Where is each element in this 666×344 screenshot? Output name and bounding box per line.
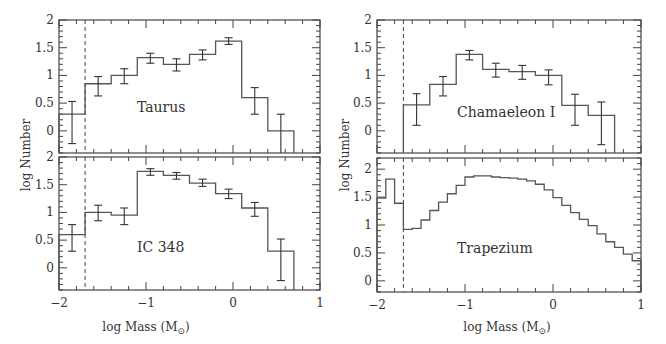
y-tick-label: 1	[46, 205, 54, 219]
panel-ic348: 00.511.52−2−101IC 348	[35, 150, 324, 310]
error-bar	[571, 94, 579, 125]
y-tick-label: 0.5	[35, 233, 54, 247]
error-bar	[68, 101, 76, 143]
svg-text:log Mass (M⊙): log Mass (M⊙)	[102, 320, 189, 336]
y-tick-label: 0	[46, 261, 54, 275]
x-tick-label: 1	[316, 296, 324, 310]
error-bar	[120, 208, 128, 225]
error-bar	[439, 77, 447, 96]
y-tick-label: 1.5	[353, 190, 372, 204]
histogram-steps	[59, 171, 294, 290]
x-tick-label: −2	[368, 298, 386, 312]
error-bar	[277, 114, 285, 153]
panel-trapezium: 00.511.52−2−101Trapezium	[353, 158, 645, 312]
x-tick-label: −1	[137, 296, 155, 310]
error-bar	[597, 102, 605, 145]
error-bar	[68, 225, 76, 252]
histogram-steps	[377, 176, 641, 292]
x-axis-label-close: )	[185, 320, 190, 334]
y-tick-label: 0	[46, 124, 54, 138]
error-bar	[518, 65, 526, 79]
x-axis-label-left: log Mass (M⊙)	[102, 320, 189, 336]
x-tick-label: 0	[229, 296, 237, 310]
panel-taurus: 00.511.52Taurus	[35, 13, 320, 153]
error-bar	[251, 88, 259, 115]
error-bar	[120, 69, 128, 84]
y-tick-label: 2	[364, 13, 372, 27]
error-bar	[545, 70, 553, 85]
x-tick-label: −2	[50, 296, 68, 310]
y-tick-label: 1.5	[353, 41, 372, 55]
x-axis-label-text: log Mass (M	[463, 320, 538, 334]
solar-mass-symbol: ⊙	[538, 326, 546, 336]
y-axis-label-right: log Number	[338, 118, 352, 191]
error-bar	[277, 239, 285, 281]
y-tick-label: 0	[364, 274, 372, 288]
y-tick-label: 1	[364, 68, 372, 82]
y-tick-label: 2	[46, 13, 54, 27]
x-tick-label: −1	[456, 298, 474, 312]
error-bar	[492, 63, 500, 77]
x-axis-label-close: )	[546, 320, 551, 334]
x-axis-label-text: log Mass (M	[102, 320, 177, 334]
x-tick-label: 1	[637, 298, 645, 312]
panel-label: Chamaeleon I	[457, 104, 555, 120]
histogram-steps	[59, 41, 294, 153]
y-tick-label: 1.5	[35, 178, 54, 192]
imf-histogram-figure: 00.511.52Taurus 00.511.52−2−101IC 348 00…	[0, 0, 666, 344]
error-bar	[465, 50, 473, 59]
y-tick-label: 1.5	[35, 41, 54, 55]
solar-mass-symbol: ⊙	[177, 326, 185, 336]
y-tick-label: 1	[364, 218, 372, 232]
y-tick-label: 2	[364, 162, 372, 176]
y-tick-label: 0	[364, 124, 372, 138]
y-axis-label-left: log Number	[19, 118, 33, 191]
panel-label: IC 348	[137, 239, 184, 255]
error-bar	[251, 202, 259, 216]
error-bar	[94, 77, 102, 96]
error-bar	[413, 94, 421, 126]
y-tick-label: 0.5	[353, 96, 372, 110]
panel-label: Trapezium	[457, 240, 533, 256]
panel-chamaeleon: 00.511.52Chamaeleon I	[353, 13, 641, 153]
y-tick-label: 0.5	[35, 96, 54, 110]
y-tick-label: 1	[46, 68, 54, 82]
y-tick-label: 2	[46, 150, 54, 164]
panel-label: Taurus	[137, 99, 186, 115]
svg-text:log Mass (M⊙): log Mass (M⊙)	[463, 320, 550, 336]
x-axis-label-right: log Mass (M⊙)	[463, 320, 550, 336]
x-tick-label: 0	[549, 298, 557, 312]
y-tick-label: 0.5	[353, 246, 372, 260]
